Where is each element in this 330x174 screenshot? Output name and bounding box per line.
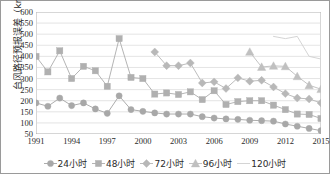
data-point — [152, 110, 158, 116]
data-point — [270, 118, 276, 124]
legend-item-4[interactable]: 96小时 — [189, 157, 232, 170]
data-point — [69, 75, 75, 81]
data-point — [175, 91, 181, 97]
data-point — [211, 115, 217, 121]
legend-item-3[interactable]: 72小时 — [140, 157, 183, 170]
chart-frame: 台风路径预报误差（km） 600550500450400350300250200… — [0, 0, 330, 174]
legend-item-1[interactable]: 24小时 — [44, 157, 87, 170]
data-point — [306, 125, 312, 131]
data-point — [247, 98, 253, 104]
data-point — [45, 69, 51, 75]
x-tick-label: 2006 — [206, 136, 223, 146]
data-point — [57, 95, 63, 101]
data-point — [199, 97, 205, 103]
plot-area: 60055050045040035030025020015010050 1991… — [36, 12, 321, 134]
x-tick-label: 2003 — [170, 136, 187, 146]
legend-marker-triangle-icon — [189, 159, 202, 168]
data-point — [104, 110, 110, 116]
data-point — [247, 117, 253, 123]
x-tick-label: 2000 — [134, 136, 151, 146]
chart-svg — [36, 12, 321, 134]
legend-marker-square-icon — [92, 159, 105, 168]
data-point — [164, 111, 170, 117]
data-point — [116, 93, 122, 99]
y-tick-label: 150 — [20, 107, 33, 117]
y-tick-label: 250 — [20, 85, 33, 95]
data-point — [80, 63, 86, 69]
data-point — [36, 53, 39, 59]
data-point — [199, 114, 205, 120]
data-point — [235, 116, 241, 122]
legend-item-2[interactable]: 48小时 — [92, 157, 135, 170]
data-point — [294, 123, 300, 129]
data-point — [45, 103, 51, 109]
y-tick-label: 500 — [20, 29, 33, 39]
data-point — [282, 121, 288, 127]
legend-label: 72小时 — [154, 157, 183, 170]
data-point — [128, 107, 134, 113]
data-point — [211, 88, 217, 94]
x-tick-label: 1991 — [28, 136, 45, 146]
data-point — [235, 99, 241, 105]
y-tick-label: 600 — [20, 7, 33, 17]
data-point — [92, 68, 98, 74]
data-point — [92, 106, 98, 112]
data-point — [270, 102, 276, 108]
legend-label: 120小时 — [251, 157, 286, 170]
y-tick-label: 400 — [20, 51, 33, 61]
data-point — [95, 160, 101, 166]
data-point — [318, 115, 321, 121]
y-tick-label: 200 — [20, 96, 33, 106]
legend-label: 96小时 — [203, 157, 232, 170]
data-point — [282, 107, 288, 113]
legend-marker-diamond-icon — [140, 159, 153, 168]
data-point — [104, 83, 110, 89]
y-tick-label: 450 — [20, 40, 33, 50]
data-point — [164, 90, 170, 96]
data-point — [116, 36, 122, 42]
legend-marker-none-icon — [237, 159, 250, 168]
data-point — [57, 48, 63, 54]
data-point — [187, 89, 193, 95]
x-tick-label: 2015 — [313, 136, 330, 146]
y-tick-label: 100 — [20, 118, 33, 128]
data-point — [306, 111, 312, 117]
x-tick-label: 1994 — [63, 136, 80, 146]
data-point — [223, 116, 229, 122]
x-tick-label: 1997 — [99, 136, 116, 146]
data-point — [128, 74, 134, 80]
data-point — [47, 160, 53, 166]
data-point — [259, 98, 265, 104]
data-point — [69, 103, 75, 109]
legend-marker-circle-icon — [44, 159, 57, 168]
data-point — [259, 118, 265, 124]
data-point — [223, 101, 229, 107]
x-tick-label: 2012 — [277, 136, 294, 146]
data-point — [140, 108, 146, 114]
y-tick-label: 550 — [20, 18, 33, 28]
data-point — [143, 160, 151, 168]
data-point — [294, 111, 300, 117]
data-point — [140, 75, 146, 81]
legend-label: 48小时 — [106, 157, 135, 170]
chart-legend: 24小时48小时72小时96小时120小时 — [1, 157, 329, 170]
data-point — [80, 100, 86, 106]
legend-label: 24小时 — [58, 157, 87, 170]
y-tick-label: 300 — [20, 74, 33, 84]
data-point — [187, 111, 193, 117]
legend-item-5[interactable]: 120小时 — [237, 157, 286, 170]
x-tick-label: 2009 — [241, 136, 258, 146]
y-tick-label: 350 — [20, 62, 33, 72]
data-point — [175, 111, 181, 117]
data-point — [152, 91, 158, 97]
